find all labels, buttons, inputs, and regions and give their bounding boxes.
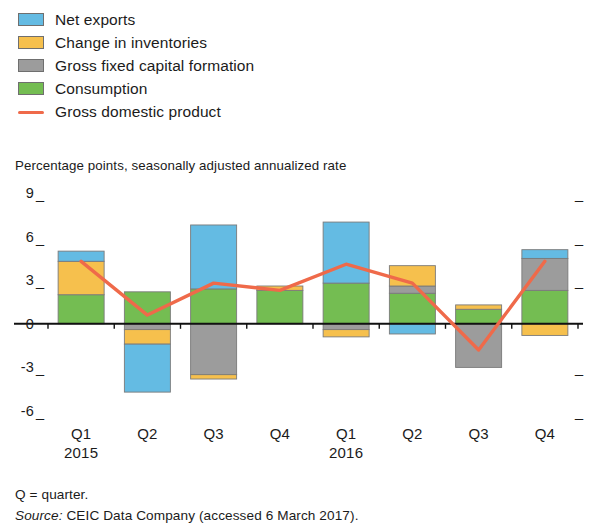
y-axis-tick-label: -6 <box>0 403 34 419</box>
y-axis-tick-mark: _ <box>36 273 44 289</box>
y-axis-tick-label: 9 <box>0 185 34 201</box>
y-axis-tick-label: 0 <box>0 316 34 332</box>
x-axis-quarter-label: Q4 <box>535 424 555 443</box>
bar-group <box>456 305 502 367</box>
y-axis-tick-mark: _ <box>36 360 44 376</box>
bar-segment <box>456 309 502 324</box>
bar-segment <box>257 290 303 323</box>
bar-segment <box>124 344 170 392</box>
bar-segment <box>323 283 369 324</box>
bar-segment <box>191 289 237 324</box>
legend-label-consumption: Consumption <box>55 80 147 97</box>
x-axis-quarter-label: Q2 <box>137 424 157 443</box>
x-axis-labels: Q12015Q2Q3Q4Q12016Q2Q3Q4 <box>0 424 589 476</box>
x-axis-quarter-label: Q1 <box>64 424 98 443</box>
legend-label-change-in-inventories: Change in inventories <box>55 34 207 51</box>
legend-swatch-gross-fixed-capital-formation <box>18 59 44 72</box>
y-axis-tick-mark-right: _ <box>575 186 583 202</box>
bar-segment <box>323 222 369 283</box>
chart-legend: Net exports Change in inventories Gross … <box>18 8 418 123</box>
legend-swatch-consumption <box>18 82 44 95</box>
y-axis-tick-mark-right: _ <box>575 404 583 420</box>
bar-segment <box>522 324 568 336</box>
y-axis-tick-label: 3 <box>0 272 34 288</box>
bar-segment <box>58 295 104 324</box>
legend-item-consumption: Consumption <box>18 77 418 100</box>
x-axis-quarter-label: Q4 <box>270 424 290 443</box>
bar-segment <box>522 250 568 259</box>
y-axis-tick-mark-right: _ <box>575 360 583 376</box>
bar-segment <box>389 286 435 293</box>
y-axis-tick-mark: _ <box>36 186 44 202</box>
axis-subtitle: Percentage points, seasonally adjusted a… <box>15 158 346 173</box>
y-axis-tick-mark-right: _ <box>575 273 583 289</box>
x-axis-tick-label: Q4 <box>270 424 290 443</box>
x-axis-tick-label: Q2 <box>402 424 422 443</box>
legend-label-net-exports: Net exports <box>55 11 135 28</box>
source-label: Source: <box>15 508 63 523</box>
bar-segment <box>389 324 435 334</box>
y-axis-tick-mark: _ <box>36 230 44 246</box>
bar-group <box>323 222 369 337</box>
bar-segment <box>456 305 502 309</box>
footnote-source: Source: CEIC Data Company (accessed 6 Ma… <box>15 505 575 526</box>
legend-item-change-in-inventories: Change in inventories <box>18 31 418 54</box>
bar-group <box>191 225 237 379</box>
legend-label-gross-domestic-product: Gross domestic product <box>55 103 221 120</box>
legend-swatch-change-in-inventories <box>18 36 44 49</box>
bar-segment <box>191 324 237 375</box>
legend-item-gross-domestic-product: Gross domestic product <box>18 100 418 123</box>
legend-item-gross-fixed-capital-formation: Gross fixed capital formation <box>18 54 418 77</box>
x-axis-quarter-label: Q1 <box>329 424 363 443</box>
y-axis-tick-label: -3 <box>0 359 34 375</box>
x-axis-tick-label: Q12016 <box>329 424 363 462</box>
legend-swatch-net-exports <box>18 13 44 26</box>
legend-item-net-exports: Net exports <box>18 8 418 31</box>
bar-segment <box>191 375 237 379</box>
source-text: CEIC Data Company (accessed 6 March 2017… <box>66 508 358 523</box>
x-axis-tick-label: Q12015 <box>64 424 98 462</box>
chart-plot-area: 9__6__3__0-3__-6__ <box>0 182 589 422</box>
bar-segment <box>323 330 369 337</box>
chart-svg <box>0 182 589 422</box>
x-axis-tick-label: Q4 <box>535 424 555 443</box>
x-axis-tick-label: Q3 <box>203 424 223 443</box>
chart-footnotes: Q = quarter. Source: CEIC Data Company (… <box>15 484 575 526</box>
x-axis-tick-label: Q3 <box>468 424 488 443</box>
bar-segment <box>58 261 104 294</box>
bar-segment <box>124 330 170 345</box>
bar-segment <box>522 290 568 323</box>
x-axis-quarter-label: Q3 <box>468 424 488 443</box>
x-axis-quarter-label: Q2 <box>402 424 422 443</box>
legend-line-gross-domestic-product <box>18 105 44 118</box>
x-axis-quarter-label: Q3 <box>203 424 223 443</box>
x-axis-year-label: 2016 <box>329 443 363 462</box>
bar-segment <box>191 225 237 289</box>
footnote-quarter: Q = quarter. <box>15 484 575 505</box>
x-axis-tick-label: Q2 <box>137 424 157 443</box>
y-axis-tick-mark: _ <box>36 404 44 420</box>
legend-label-gross-fixed-capital-formation: Gross fixed capital formation <box>55 57 254 74</box>
y-axis-tick-mark-right: _ <box>575 230 583 246</box>
y-axis-tick-label: 6 <box>0 229 34 245</box>
x-axis-year-label: 2015 <box>64 443 98 462</box>
